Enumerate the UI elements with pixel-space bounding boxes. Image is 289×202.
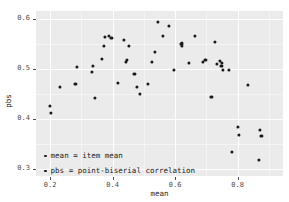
- y-tick-mark: [33, 119, 36, 120]
- gridline-major-horizontal: [36, 19, 283, 20]
- y-tick-label: 0.5: [17, 65, 30, 72]
- gridline-minor-horizontal: [36, 144, 283, 145]
- legend-entry-pbs: pbs = point-biserial correlation: [44, 167, 195, 175]
- data-point: [215, 62, 218, 65]
- data-point: [180, 44, 183, 47]
- data-point: [162, 34, 165, 37]
- data-point: [221, 68, 224, 71]
- x-axis-label: mean: [36, 189, 283, 198]
- gridline-major-vertical: [238, 11, 239, 176]
- data-point: [227, 68, 230, 71]
- y-tick-mark: [33, 19, 36, 20]
- x-tick-label: 0.8: [231, 182, 244, 189]
- x-tick-label: 0.6: [169, 182, 182, 189]
- data-point: [210, 95, 213, 98]
- data-point: [127, 44, 130, 47]
- data-point: [58, 85, 61, 88]
- data-point: [74, 82, 77, 85]
- data-point: [102, 44, 105, 47]
- y-tick-mark: [33, 169, 36, 170]
- data-point: [187, 61, 190, 64]
- data-point: [154, 50, 157, 53]
- data-point: [194, 34, 197, 37]
- data-point: [238, 133, 241, 136]
- x-tick-label: 0.2: [44, 182, 57, 189]
- x-tick-mark: [238, 177, 239, 180]
- data-point: [116, 81, 119, 84]
- y-tick-mark: [33, 69, 36, 70]
- data-point: [260, 134, 263, 137]
- data-point: [100, 57, 103, 60]
- x-tick-mark: [113, 177, 114, 180]
- x-tick-mark: [175, 177, 176, 180]
- data-point: [150, 60, 153, 63]
- legend-dot-icon: [44, 170, 47, 173]
- legend-label-mean: mean = item mean: [51, 152, 123, 160]
- data-point: [246, 83, 249, 86]
- data-point: [135, 85, 138, 88]
- data-point: [167, 24, 170, 27]
- data-point: [230, 150, 233, 153]
- scatter-plot-figure: 0.30.40.50.60.20.40.60.8 pbs mean mean =…: [0, 0, 289, 202]
- data-point: [103, 35, 106, 38]
- legend-dot-icon: [44, 155, 47, 158]
- data-point: [220, 61, 223, 64]
- gridline-minor-horizontal: [36, 44, 283, 45]
- y-tick-label: 0.6: [17, 15, 30, 22]
- gridline-minor-horizontal: [36, 94, 283, 95]
- legend-entry-mean: mean = item mean: [44, 152, 123, 160]
- gridline-major-vertical: [175, 11, 176, 176]
- data-point: [133, 72, 136, 75]
- data-point: [257, 158, 260, 161]
- gridline-major-horizontal: [36, 119, 283, 120]
- y-tick-label: 0.3: [17, 165, 30, 172]
- y-tick-label: 0.4: [17, 115, 30, 122]
- data-point: [236, 125, 239, 128]
- data-point: [93, 96, 96, 99]
- data-point: [122, 38, 125, 41]
- legend-label-pbs: pbs = point-biserial correlation: [51, 167, 196, 175]
- gridline-major-horizontal: [36, 69, 283, 70]
- data-point: [49, 111, 52, 114]
- data-point: [48, 104, 51, 107]
- data-point: [139, 92, 142, 95]
- data-point: [125, 58, 128, 61]
- data-point: [259, 128, 262, 131]
- y-axis-label: pbs: [4, 94, 13, 108]
- data-point: [156, 20, 159, 23]
- data-point: [90, 70, 93, 73]
- data-point: [92, 64, 95, 67]
- x-tick-mark: [50, 177, 51, 180]
- x-tick-label: 0.4: [106, 182, 119, 189]
- data-point: [146, 82, 149, 85]
